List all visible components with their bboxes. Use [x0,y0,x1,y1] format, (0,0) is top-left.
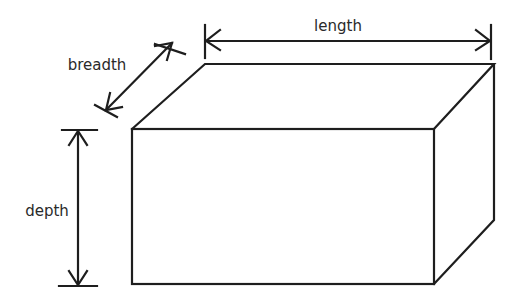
length-label: length [314,17,362,35]
cuboid [132,64,494,284]
breadth-label: breadth [68,56,127,74]
breadth-dimension [95,43,185,117]
cuboid-diagram: length breadth depth [0,0,517,304]
depth-label: depth [25,202,69,220]
top-face-edges [132,64,494,129]
front-face [132,129,434,284]
